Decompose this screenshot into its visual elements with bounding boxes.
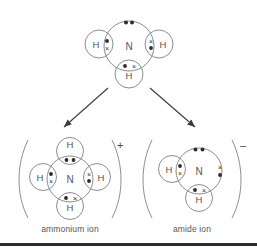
ammonia-hydrogen-right-label: H — [160, 39, 167, 50]
ammonium-bond-left-electrons: × — [49, 172, 53, 185]
amide-bond-left-electrons: × — [178, 164, 182, 177]
svg-text:×: × — [73, 195, 77, 202]
ammonium-hydrogen-left-label: H — [37, 172, 44, 183]
diagram-canvas: N H H H × × × — [0, 0, 257, 248]
amide-bracket-left — [143, 140, 152, 218]
ammonium-hydrogen-bottom-label: H — [67, 202, 74, 213]
svg-text:×: × — [149, 38, 153, 45]
amide-bond-bottom-electrons: × — [193, 187, 206, 194]
molecule-amide: N H H × × × — [143, 140, 241, 218]
ammonium-nitrogen-label: N — [66, 174, 73, 185]
amide-caption: amide ion — [147, 224, 237, 234]
ammonium-hydrogen-right-label: H — [98, 172, 105, 183]
chemistry-diagram-svg: N H H H × × × — [0, 0, 257, 248]
ammonium-hydrogen-top-label: H — [67, 139, 74, 150]
molecule-ammonia: N H H H × × × — [85, 21, 173, 89]
amide-hydrogen-bottom-label: H — [196, 194, 203, 205]
ammonium-bracket-right — [112, 140, 121, 218]
svg-text:×: × — [132, 63, 136, 70]
amide-nitrogen-label: N — [195, 166, 202, 177]
amide-hydrogen-left-label: H — [166, 164, 173, 175]
amide-bracket-right — [232, 140, 241, 218]
svg-text:×: × — [202, 187, 206, 194]
ammonia-nitrogen-label: N — [125, 41, 132, 52]
bottom-divider — [0, 243, 257, 246]
ammonium-bond-right-electrons: × — [87, 171, 91, 183]
ammonia-hydrogen-left-label: H — [93, 39, 100, 50]
svg-text:×: × — [105, 45, 109, 52]
ammonium-bond-bottom-electrons: × — [64, 195, 77, 202]
ammonium-bond-top-electrons — [65, 158, 76, 162]
svg-text:×: × — [178, 170, 182, 177]
ammonium-caption: ammonium ion — [20, 224, 120, 234]
ammonia-bond-right-electrons: × — [149, 38, 153, 50]
svg-text:×: × — [49, 178, 53, 185]
svg-text:×: × — [87, 171, 91, 178]
ammonia-hydrogen-bottom-label: H — [126, 70, 133, 81]
amide-charge-label: – — [240, 140, 246, 151]
molecule-ammonium: N H H H H × × × — [19, 138, 121, 220]
arrow-to-ammonium — [64, 88, 108, 127]
ammonium-charge-label: + — [117, 140, 123, 151]
amide-lone-pair-right: × — [218, 164, 222, 177]
arrow-to-amide — [150, 88, 195, 127]
ammonia-bond-bottom-electrons: × — [123, 63, 136, 70]
svg-text:×: × — [218, 164, 222, 171]
ammonia-bond-left-electrons: × — [105, 39, 109, 52]
ammonium-bracket-left — [19, 140, 28, 218]
